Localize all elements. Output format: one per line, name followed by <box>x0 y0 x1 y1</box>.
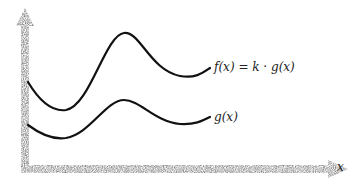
curve-f-label: f(x) = k · g(x) <box>214 60 295 74</box>
x-axis-label: x <box>337 160 344 174</box>
curve-g <box>28 100 210 138</box>
diagram-canvas <box>0 0 357 190</box>
axes <box>16 8 348 178</box>
curve-f <box>28 33 210 110</box>
y-axis-arrow-icon <box>16 8 34 26</box>
curve-g-label: g(x) <box>214 110 238 124</box>
x-axis <box>21 165 331 173</box>
y-axis <box>21 22 29 172</box>
